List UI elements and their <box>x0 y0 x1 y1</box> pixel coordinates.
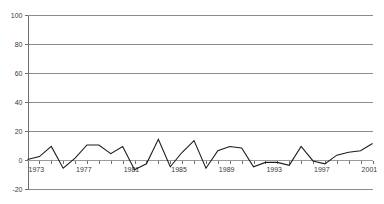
y-tick-label: 20 <box>15 128 23 135</box>
y-tick-label: 60 <box>15 70 23 77</box>
y-tick-label: 100 <box>11 12 23 19</box>
x-tick-label: 1989 <box>219 166 235 173</box>
y-tick-label: -20 <box>12 186 22 193</box>
x-tick-label: 2001 <box>362 166 378 173</box>
y-tick-label: 40 <box>15 99 23 106</box>
x-tick-label: 1977 <box>76 166 92 173</box>
y-tick-label: 0 <box>19 157 23 164</box>
x-tick-label: 1997 <box>314 166 330 173</box>
line-chart: 100806040200-20 197319771981198519891993… <box>0 0 384 204</box>
x-tick-label: 1973 <box>29 166 45 173</box>
y-tick-label: 80 <box>15 41 23 48</box>
x-tick-label: 1985 <box>171 166 187 173</box>
chart-canvas: 100806040200-20 197319771981198519891993… <box>0 0 384 204</box>
x-tick-label: 1993 <box>266 166 282 173</box>
